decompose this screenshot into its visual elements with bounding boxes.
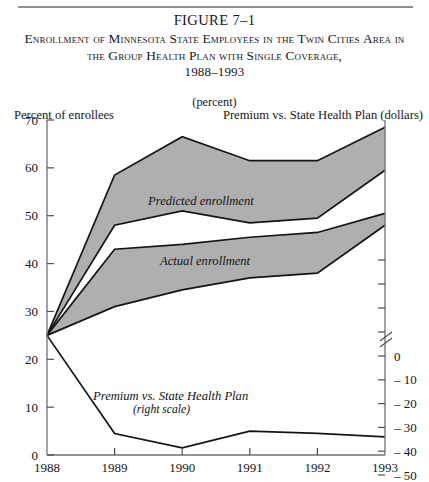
left-tick-label: 70 — [25, 113, 38, 128]
chart-plot: 706050403020100 0– 10– 20– 30– 40– 50 19… — [0, 0, 429, 482]
right-axis-ticks: 0– 10– 20– 30– 40– 50 — [378, 260, 417, 482]
x-axis-ticks: 198819891990199119921993 — [34, 448, 398, 475]
left-tick-label: 60 — [25, 160, 38, 175]
left-axis-ticks: 706050403020100 — [25, 113, 54, 463]
x-tick-label: 1993 — [372, 460, 398, 475]
right-axis-break — [380, 332, 392, 347]
left-tick-label: 20 — [25, 352, 38, 367]
left-tick-label: 30 — [25, 304, 38, 319]
left-tick-label: 50 — [25, 208, 38, 223]
x-tick-label: 1992 — [304, 460, 330, 475]
predicted-enrollment-label: Predicted enrollment — [147, 194, 254, 208]
x-tick-label: 1991 — [237, 460, 263, 475]
x-tick-label: 1988 — [34, 460, 60, 475]
premium-line-label: Premium vs. State Health Plan — [92, 389, 248, 403]
actual-enrollment-label: Actual enrollment — [159, 254, 251, 268]
shaded-bands — [47, 127, 385, 335]
right-tick-label: – 10 — [393, 372, 417, 387]
right-tick-label: – 20 — [393, 396, 417, 411]
right-tick-label: – 30 — [393, 420, 417, 435]
right-tick-label: – 40 — [393, 444, 417, 459]
x-tick-label: 1989 — [102, 460, 128, 475]
figure-container: FIGURE 7–1 Enrollment of Minnesota State… — [0, 0, 429, 482]
left-tick-label: 40 — [25, 256, 38, 271]
left-tick-label: 10 — [25, 400, 38, 415]
premium-right-scale-label: (right scale) — [133, 403, 190, 416]
right-tick-label: 0 — [394, 349, 401, 364]
x-tick-label: 1990 — [169, 460, 195, 475]
